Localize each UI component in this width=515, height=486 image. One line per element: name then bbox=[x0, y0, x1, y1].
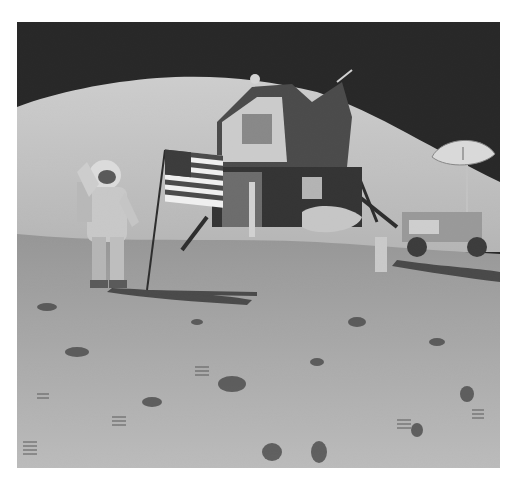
moon-photo bbox=[17, 22, 500, 468]
